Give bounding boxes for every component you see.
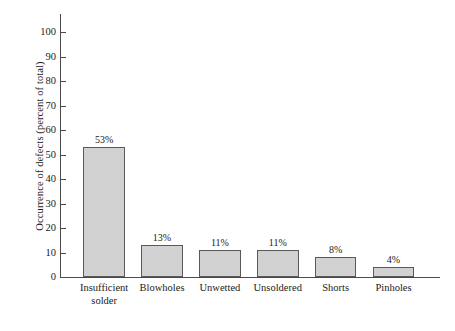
y-axis-tick-label: 40: [12, 173, 56, 184]
bar[interactable]: [83, 147, 125, 277]
y-axis-tick: [61, 106, 66, 107]
y-axis-tick: [61, 179, 66, 180]
y-axis-tick-label: 60: [12, 124, 56, 135]
bar-value-label: 4%: [387, 254, 400, 265]
y-axis-tick-label: 100: [12, 26, 56, 37]
bar-group[interactable]: 53%: [83, 14, 125, 277]
bar-value-label: 8%: [329, 244, 342, 255]
bar-value-label: 13%: [153, 232, 171, 243]
bar-group[interactable]: 11%: [257, 14, 299, 277]
bar[interactable]: [315, 257, 357, 277]
bar-value-label: 53%: [95, 134, 113, 145]
y-axis-tick-label: 90: [12, 51, 56, 62]
y-axis-tick: [61, 253, 66, 254]
bar-group[interactable]: 8%: [315, 14, 357, 277]
y-axis-tick-label: 30: [12, 198, 56, 209]
y-axis-tick: [61, 204, 66, 205]
x-axis-category-label: Pinholes: [360, 281, 427, 294]
y-axis-tick-label: 10: [12, 247, 56, 258]
y-axis-tick: [61, 81, 66, 82]
y-axis-tick: [61, 228, 66, 229]
bar[interactable]: [141, 245, 183, 277]
bar-value-label: 11%: [269, 237, 287, 248]
bar[interactable]: [199, 250, 241, 277]
y-axis-tick-label: 80: [12, 75, 56, 86]
y-axis-tick-label: 0: [12, 271, 56, 282]
y-axis-tick-label: 50: [12, 149, 56, 160]
bar-chart-figure: Occurrence of defects (percent of total)…: [0, 0, 455, 331]
bar[interactable]: [373, 267, 415, 277]
bar-group[interactable]: 13%: [141, 14, 183, 277]
y-axis-tick-label: 20: [12, 222, 56, 233]
bar-group[interactable]: 4%: [373, 14, 415, 277]
y-axis-tick-labels: 1009080706050403020100: [12, 0, 56, 331]
bar-value-label: 11%: [211, 237, 229, 248]
bar[interactable]: [257, 250, 299, 277]
bar-group[interactable]: 11%: [199, 14, 241, 277]
x-axis-category-labels: Insufficient solderBlowholesUnwettedUnso…: [61, 281, 440, 327]
y-axis-tick-label: 70: [12, 100, 56, 111]
y-axis-tick: [61, 277, 66, 278]
plot-area: 53%13%11%11%8%4%: [61, 14, 440, 277]
y-axis-tick: [61, 155, 66, 156]
y-axis-tick: [61, 57, 66, 58]
y-axis-tick: [61, 130, 66, 131]
x-axis-line: [60, 277, 440, 278]
y-axis-tick: [61, 32, 66, 33]
